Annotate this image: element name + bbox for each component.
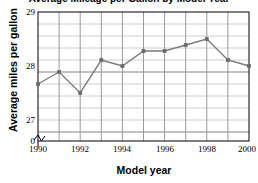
data-point (163, 49, 167, 53)
axis-break-icon (34, 135, 45, 141)
data-point (78, 91, 82, 95)
chart-figure: Average Mileage per Gallon by Model Year… (0, 0, 258, 183)
vertical-gridlines (59, 12, 228, 141)
data-point (99, 58, 103, 62)
data-point (184, 43, 188, 47)
data-point (142, 49, 146, 53)
data-point (57, 70, 61, 74)
plot-area (0, 0, 258, 183)
data-point (247, 64, 251, 68)
data-point (36, 82, 40, 86)
data-point (226, 58, 230, 62)
data-point (121, 64, 125, 68)
data-point (205, 37, 209, 41)
